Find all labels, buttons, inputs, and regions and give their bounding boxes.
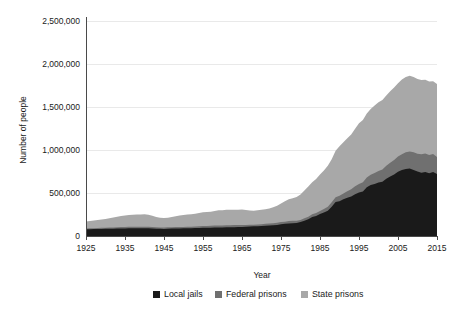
x-tick-label: 1995 [350,243,369,253]
legend-item: State prisons [301,289,364,299]
legend-swatch [153,291,160,298]
y-tick-label: 0 [75,231,80,241]
x-tick-label: 1945 [155,243,174,253]
x-tick-label: 1975 [272,243,291,253]
legend-item: Federal prisons [215,289,287,299]
x-tick-label: 1935 [116,243,135,253]
y-tick-labels-group: 2,500,0002,000,0001,500,0001,000,000500,… [42,16,80,241]
legend-label: Local jails [164,289,203,299]
stacked-areas-group [86,76,437,236]
x-tick-label: 1925 [77,243,96,253]
legend-label: State prisons [312,289,364,299]
y-tick-label: 500,000 [49,188,80,198]
prison-population-area-chart: 2,500,0002,000,0001,500,0001,000,000500,… [0,0,468,316]
y-tick-label: 1,000,000 [42,145,80,155]
y-axis-title: Number of people [18,96,28,164]
x-tick-label: 2015 [428,243,447,253]
x-tick-label: 2005 [389,243,408,253]
legend-swatch [215,291,222,298]
x-tick-labels-group: 1925193519451955196519751985199520052015 [77,243,447,253]
y-tick-label: 1,500,000 [42,102,80,112]
y-tick-label: 2,000,000 [42,59,80,69]
chart-legend: Local jailsFederal prisonsState prisons [153,289,364,299]
x-tick-label: 1955 [194,243,213,253]
legend-item: Local jails [153,289,203,299]
legend-swatch [301,291,308,298]
y-tick-label: 2,500,000 [42,16,80,26]
chart-canvas: 2,500,0002,000,0001,500,0001,000,000500,… [0,0,468,316]
legend-label: Federal prisons [226,289,287,299]
x-tick-label: 1985 [311,243,330,253]
x-axis-title: Year [253,270,270,280]
x-tick-label: 1965 [233,243,252,253]
